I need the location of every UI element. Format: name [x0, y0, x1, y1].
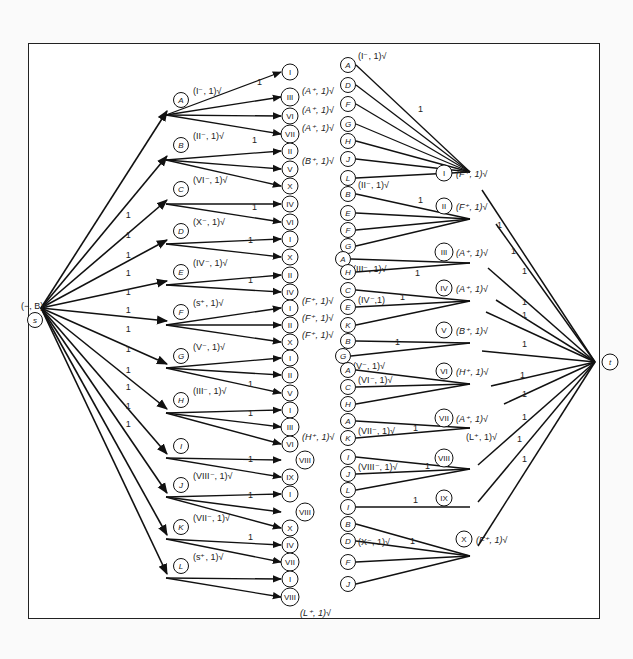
- edge-flow-label: 1: [248, 454, 253, 464]
- edge-B-to-V: [356, 341, 470, 343]
- left-node-I: I: [174, 439, 189, 454]
- node-label: H: [345, 400, 351, 409]
- node-label: G: [178, 352, 184, 361]
- source-edge-flow-label: 1: [126, 401, 131, 411]
- edge-flow-label: 1: [400, 292, 405, 302]
- node-label: C: [345, 286, 351, 295]
- mid-node-I: I: [282, 402, 298, 418]
- left-node-J: J: [174, 478, 189, 493]
- node-label: VI: [286, 440, 294, 449]
- edge-to-sink: [488, 268, 595, 362]
- right-left-node-E: E: [341, 300, 356, 315]
- node-label: VIII: [438, 454, 450, 463]
- mid-node-I: I: [282, 486, 298, 502]
- node-label: IX: [286, 473, 294, 482]
- right-target-label: (B⁺, 1)√: [456, 326, 488, 336]
- node-label: K: [345, 434, 351, 443]
- edge-G-to-V: [351, 343, 470, 356]
- edge-A-to-III: [351, 259, 470, 263]
- node-label: H: [345, 137, 351, 146]
- node-label: IV: [286, 288, 294, 297]
- right-node-label: (III⁻, 1)√: [353, 264, 387, 274]
- right-left-node-F: F: [341, 223, 356, 238]
- edge-F-to-X: [166, 325, 281, 342]
- node-label: VII: [285, 130, 295, 139]
- node-label: B: [345, 337, 351, 346]
- edge-flow-label: 1: [418, 195, 423, 205]
- node-label: H: [178, 396, 184, 405]
- node-label: L: [179, 562, 183, 571]
- node-label: X: [287, 253, 293, 262]
- right-node-V: V: [436, 322, 452, 338]
- node-label: D: [345, 537, 351, 546]
- sink-edge-flow-label: 1: [520, 370, 525, 380]
- node-label: VIII: [299, 456, 311, 465]
- left-node-E: E: [174, 265, 189, 280]
- edge-flow-label: 1: [248, 235, 253, 245]
- node-label: VIII: [299, 508, 311, 517]
- sink-edge-flow-label: 1: [522, 412, 527, 422]
- node-label: E: [345, 303, 351, 312]
- left-node-H: H: [174, 393, 189, 408]
- mid-node-VII: VII: [281, 125, 299, 143]
- extra-label: (L⁺, 1)√: [466, 432, 497, 442]
- right-node-X: X: [456, 531, 472, 547]
- edge-to-sink: [482, 351, 595, 362]
- edge-F-to-II: [356, 219, 470, 230]
- edge-J-to-X: [356, 556, 470, 584]
- edge-E-to-IV: [166, 285, 281, 292]
- edge-flow-label: 1: [252, 135, 257, 145]
- source-edge-flow-label: 1: [126, 250, 131, 260]
- sink-edge-flow-label: 1: [522, 389, 527, 399]
- edge-flow-label: 1: [413, 495, 418, 505]
- node-label: G: [340, 352, 346, 361]
- mid-node-VII: VII: [281, 553, 299, 571]
- right-left-node-K: K: [341, 318, 356, 333]
- node-label: G: [345, 120, 351, 129]
- mid-node-X: X: [282, 178, 298, 194]
- right-node-IV: IV: [436, 280, 452, 296]
- node-label: V: [287, 165, 293, 174]
- left-node-label: (VI⁻, 1)√: [193, 175, 228, 185]
- right-left-node-B: B: [341, 187, 356, 202]
- source-edge-flow-label: 1: [126, 210, 131, 220]
- node-label: II: [288, 147, 292, 156]
- edge-source-to-C: [41, 200, 167, 308]
- right-left-node-G: G: [336, 349, 351, 364]
- node-label: I: [289, 304, 291, 313]
- right-node-VII: VII: [435, 409, 453, 427]
- left-node-label: (VII⁻, 1)√: [193, 513, 230, 523]
- node-label: A: [344, 417, 350, 426]
- mid-node-label: (A⁺, 1)√: [302, 123, 334, 133]
- node-label: IX: [440, 494, 448, 503]
- flow-network-diagram: 111111111111s(−, B)√A(I⁻, 1)√B(II⁻, 1)√C…: [0, 0, 633, 659]
- edge-to-sink: [496, 224, 595, 362]
- right-left-node-D: D: [341, 78, 356, 93]
- node-label: VI: [286, 218, 294, 227]
- mid-node-label: (A⁺, 1)√: [302, 105, 334, 115]
- right-node-label: (I⁻, 1)√: [358, 51, 387, 61]
- mid-node-II: II: [282, 267, 298, 283]
- mid-node-I: I: [282, 350, 298, 366]
- right-node-III: III: [435, 243, 453, 261]
- right-left-node-B: B: [341, 517, 356, 532]
- edge-J-to-VIII: [166, 497, 281, 512]
- left-node-C: C: [174, 182, 189, 197]
- edge-source-to-K: [41, 308, 167, 535]
- node-label: II: [288, 371, 292, 380]
- source-edge-flow-label: 1: [126, 419, 131, 429]
- node-label: E: [345, 209, 351, 218]
- node-label: D: [345, 81, 351, 90]
- node-label: K: [345, 321, 351, 330]
- node-label: I: [289, 490, 291, 499]
- sink-node-t: t: [602, 354, 618, 370]
- right-left-node-H: H: [341, 397, 356, 412]
- right-left-node-E: E: [341, 206, 356, 221]
- node-label: I: [289, 68, 291, 77]
- right-node-label: (II⁻, 1)√: [358, 180, 389, 190]
- node-label: VIII: [284, 593, 296, 602]
- node-label: I: [289, 406, 291, 415]
- mid-node-VIII: VIII: [281, 588, 299, 606]
- mid-node-X: X: [282, 520, 298, 536]
- edge-flow-label: 1: [257, 77, 262, 87]
